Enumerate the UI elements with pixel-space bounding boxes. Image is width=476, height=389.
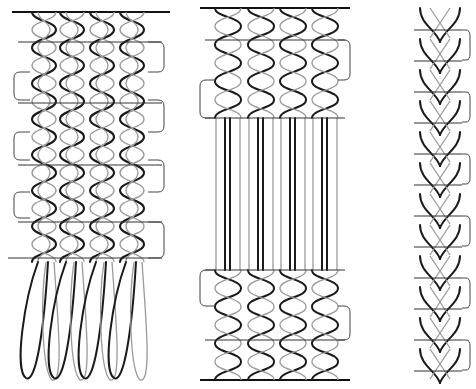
light-strand xyxy=(38,12,50,262)
light-strand xyxy=(215,270,241,380)
light-strand xyxy=(215,8,241,118)
dark-strand xyxy=(215,8,241,118)
weft-loop-right xyxy=(148,42,164,72)
weft-loop-right xyxy=(148,100,164,132)
bottom-loop-light xyxy=(131,262,147,380)
weft-loop-right xyxy=(148,222,164,258)
weft-loop-left xyxy=(14,132,30,160)
weft-loop-left xyxy=(200,270,215,306)
dark-strand xyxy=(280,8,306,118)
weft-loop-right xyxy=(338,306,350,340)
light-strand xyxy=(66,12,78,262)
weft-loop-left xyxy=(200,80,215,118)
dark-strand xyxy=(312,8,338,118)
weft-loop-right xyxy=(462,216,470,246)
weft-loop-right xyxy=(462,278,470,308)
weft-loop-left xyxy=(14,192,30,218)
dark-strand xyxy=(280,270,306,380)
dark-strand xyxy=(215,270,241,380)
weft-loop-right xyxy=(462,30,470,60)
light-strand xyxy=(280,8,306,118)
dark-strand xyxy=(248,270,274,380)
light-strand xyxy=(280,270,306,380)
panel-middle-parallel-warp xyxy=(200,8,350,380)
dark-strand xyxy=(120,12,144,262)
weft-loop-right xyxy=(462,340,470,370)
light-strand xyxy=(312,8,338,118)
light-strand xyxy=(90,12,114,262)
panel-left-interlinked-loops xyxy=(8,12,170,380)
light-strand xyxy=(96,12,108,262)
braiding-diagram xyxy=(0,0,476,389)
weft-loop-right xyxy=(338,40,350,80)
panel-right-chevron-braid xyxy=(414,8,470,383)
light-strand xyxy=(312,270,338,380)
light-strand xyxy=(248,8,274,118)
light-strand xyxy=(248,270,274,380)
light-strand xyxy=(32,12,56,262)
dark-strand xyxy=(90,12,114,262)
dark-strand xyxy=(60,12,84,262)
dark-strand xyxy=(248,8,274,118)
dark-strand xyxy=(32,12,56,262)
dark-strand xyxy=(312,270,338,380)
light-strand xyxy=(60,12,84,262)
weft-loop-right xyxy=(462,154,470,184)
light-strand xyxy=(120,12,144,262)
weft-loop-left xyxy=(14,72,30,100)
light-strand xyxy=(126,12,138,262)
weft-loop-right xyxy=(462,92,470,122)
